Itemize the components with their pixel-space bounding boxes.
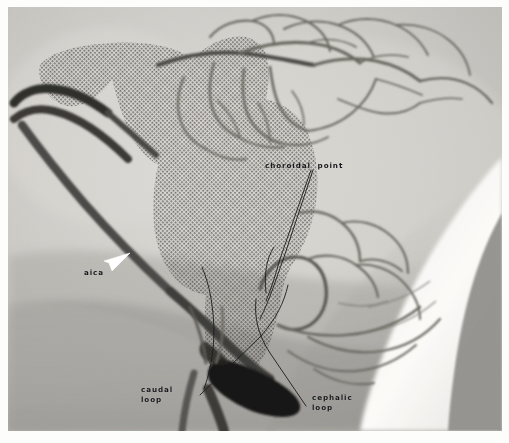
angiogram-canvas (8, 7, 502, 431)
angiogram-image: choroidal point aica caudal loop cephali… (8, 7, 502, 431)
annotation-label-choroidal-point: choroidal point (265, 161, 343, 171)
annotation-label-caudal-loop: caudal loop (141, 385, 173, 404)
film-grain (8, 7, 502, 431)
angiogram-figure: choroidal point aica caudal loop cephali… (0, 0, 509, 443)
annotation-label-aica: aica (84, 268, 104, 278)
annotation-label-cephalic-loop: cephalic loop (312, 393, 353, 412)
